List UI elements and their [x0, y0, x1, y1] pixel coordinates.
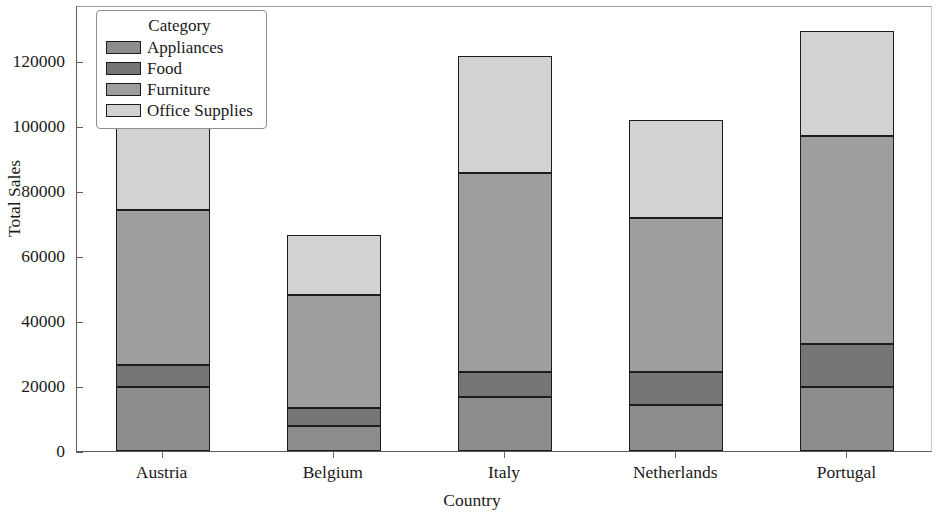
bar-segment-netherlands-appliances[interactable] [629, 405, 723, 451]
bar-segment-belgium-appliances[interactable] [287, 426, 381, 451]
x-tick-mark [675, 452, 676, 458]
x-tick-label-austria: Austria [72, 462, 252, 483]
bar-segment-netherlands-furniture[interactable] [629, 218, 723, 372]
bar-segment-netherlands-office-supplies[interactable] [629, 120, 723, 217]
y-tick-mark [76, 322, 83, 323]
legend-item-furniture[interactable]: Furniture [106, 79, 253, 100]
y-axis-label: Total Sales [4, 89, 25, 309]
x-tick-label-belgium: Belgium [243, 462, 423, 483]
y-tick-mark [76, 192, 83, 193]
bar-segment-austria-food[interactable] [116, 365, 210, 388]
legend-label: Office Supplies [147, 102, 253, 119]
legend: Category AppliancesFoodFurnitureOffice S… [96, 10, 267, 129]
bar-group-portugal[interactable] [800, 5, 894, 451]
bar-group-netherlands[interactable] [629, 5, 723, 451]
y-tick-label: 120000 [0, 53, 76, 71]
x-tick-mark [846, 452, 847, 458]
legend-rows: AppliancesFoodFurnitureOffice Supplies [106, 37, 253, 121]
bar-segment-portugal-food[interactable] [800, 344, 894, 387]
bar-segment-austria-appliances[interactable] [116, 387, 210, 451]
legend-label: Furniture [147, 81, 210, 98]
y-tick-mark [76, 62, 83, 63]
bar-segment-italy-furniture[interactable] [458, 173, 552, 372]
legend-title: Category [106, 16, 253, 37]
legend-swatch-icon [106, 62, 141, 75]
y-tick-mark [76, 127, 83, 128]
bar-segment-portugal-office-supplies[interactable] [800, 31, 894, 136]
bar-group-belgium[interactable] [287, 5, 381, 451]
bar-segment-portugal-appliances[interactable] [800, 387, 894, 451]
x-axis-label: Country [0, 490, 944, 511]
legend-label: Food [147, 60, 182, 77]
x-tick-mark [504, 452, 505, 458]
bar-segment-austria-furniture[interactable] [116, 210, 210, 365]
bar-segment-portugal-furniture[interactable] [800, 136, 894, 344]
x-tick-mark [162, 452, 163, 458]
x-tick-mark [333, 452, 334, 458]
bar-segment-belgium-furniture[interactable] [287, 295, 381, 408]
bar-group-italy[interactable] [458, 5, 552, 451]
y-tick-label: 40000 [0, 313, 76, 331]
legend-item-appliances[interactable]: Appliances [106, 37, 253, 58]
legend-item-office-supplies[interactable]: Office Supplies [106, 100, 253, 121]
bar-segment-italy-office-supplies[interactable] [458, 56, 552, 173]
legend-item-food[interactable]: Food [106, 58, 253, 79]
bar-segment-netherlands-food[interactable] [629, 372, 723, 405]
y-tick-label: 0 [0, 443, 76, 461]
bar-segment-italy-food[interactable] [458, 372, 552, 397]
bar-segment-belgium-office-supplies[interactable] [287, 235, 381, 295]
bar-segment-italy-appliances[interactable] [458, 397, 552, 451]
y-tick-mark [76, 452, 83, 453]
legend-swatch-icon [106, 104, 141, 117]
bar-segment-belgium-food[interactable] [287, 408, 381, 426]
stacked-bar-chart-figure: 020000400006000080000100000120000 Total … [0, 0, 944, 520]
y-tick-label: 20000 [0, 378, 76, 396]
legend-label: Appliances [147, 39, 223, 56]
bar-segment-austria-office-supplies[interactable] [116, 122, 210, 210]
x-tick-label-portugal: Portugal [756, 462, 936, 483]
legend-swatch-icon [106, 83, 141, 96]
x-tick-label-netherlands: Netherlands [585, 462, 765, 483]
legend-swatch-icon [106, 41, 141, 54]
y-tick-mark [76, 387, 83, 388]
x-tick-label-italy: Italy [414, 462, 594, 483]
y-tick-mark [76, 257, 83, 258]
